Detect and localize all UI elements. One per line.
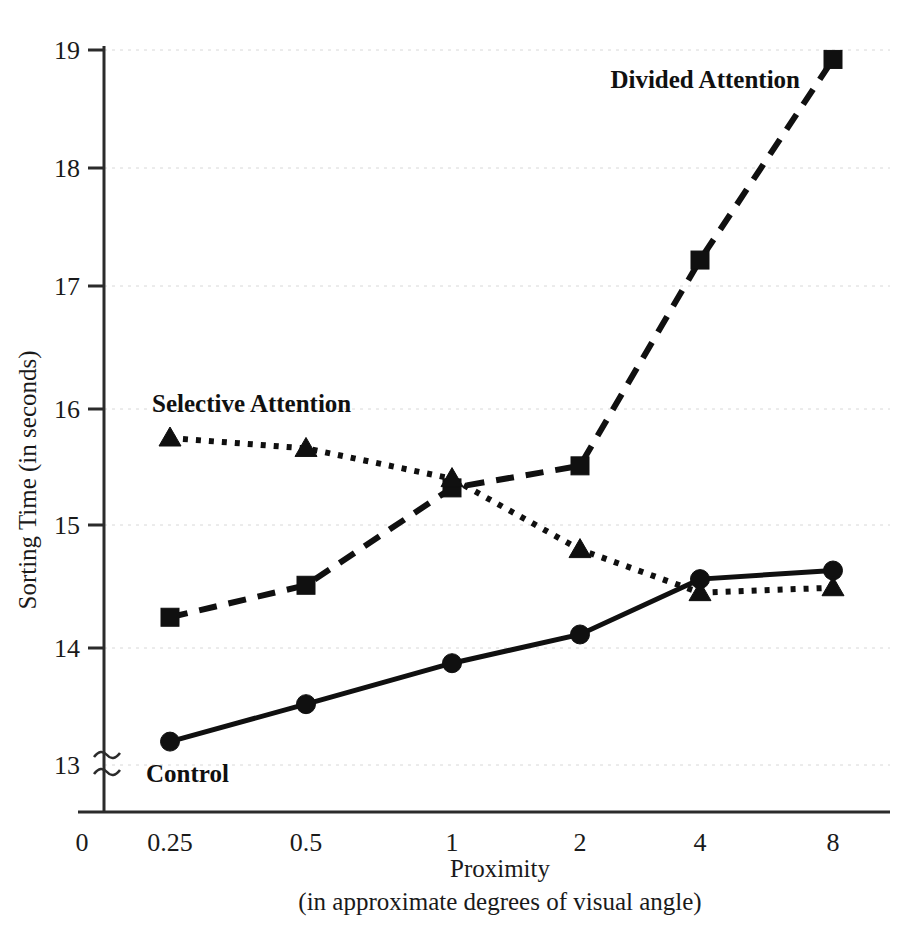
y-tick-label: 13 <box>54 751 80 780</box>
y-tick-label: 14 <box>54 634 80 663</box>
marker-square <box>824 50 842 68</box>
marker-circle <box>297 695 316 714</box>
marker-circle <box>161 732 180 751</box>
x-tick-label: 0 <box>76 828 89 857</box>
x-tick-label: 0.25 <box>147 828 193 857</box>
marker-circle <box>571 625 590 644</box>
y-axis-title: Sorting Time (in seconds) <box>14 350 42 609</box>
x-tick-label: 4 <box>694 828 707 857</box>
x-tick-label: 2 <box>574 828 587 857</box>
series-label-divided-attention: Divided Attention <box>610 66 800 93</box>
marker-square <box>571 457 589 475</box>
x-axis-subtitle: (in approximate degrees of visual angle) <box>298 888 701 916</box>
marker-square <box>297 576 315 594</box>
sorting-time-line-chart: 13141516171819 00.250.51248 Sorting Time… <box>0 0 902 931</box>
chart-background <box>0 0 902 931</box>
y-tick-label: 19 <box>54 36 80 65</box>
y-tick-label: 16 <box>54 395 80 424</box>
y-tick-label: 15 <box>54 511 80 540</box>
x-tick-label: 0.5 <box>290 828 323 857</box>
y-tick-label: 17 <box>54 272 80 301</box>
marker-square <box>691 251 709 269</box>
series-label-selective-attention: Selective Attention <box>152 390 351 417</box>
x-tick-label: 8 <box>827 828 840 857</box>
x-axis-title: Proximity <box>450 855 551 882</box>
marker-circle <box>443 654 462 673</box>
y-tick-label: 18 <box>54 154 80 183</box>
series-label-control: Control <box>146 760 229 787</box>
x-tick-label: 1 <box>446 828 459 857</box>
marker-square <box>161 608 179 626</box>
chart-container: 13141516171819 00.250.51248 Sorting Time… <box>0 0 902 931</box>
